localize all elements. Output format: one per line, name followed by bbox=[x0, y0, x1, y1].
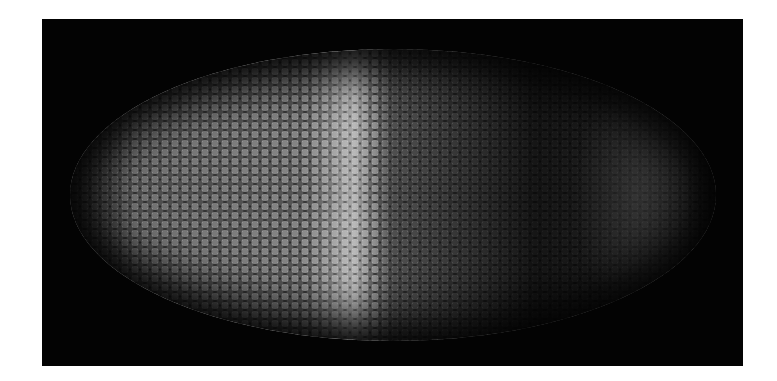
micrograph-frame bbox=[42, 19, 743, 366]
embryo bbox=[70, 49, 716, 341]
embryo-edge-fade bbox=[70, 49, 716, 341]
